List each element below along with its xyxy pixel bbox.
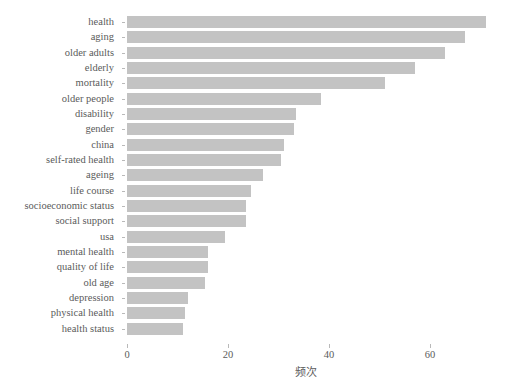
bar-row (127, 123, 294, 135)
y-axis-tick-mark (122, 99, 125, 100)
bar-row (127, 215, 246, 227)
bar (127, 47, 445, 59)
y-axis-tick-mark (122, 191, 125, 192)
y-axis-tick-label: china (91, 139, 114, 151)
y-axis-tick-label: aging (91, 31, 114, 43)
y-axis-tick-mark (122, 313, 125, 314)
bar-row (127, 16, 486, 28)
y-axis-tick-label: social support (55, 215, 114, 227)
y-axis-tick-mark (122, 329, 125, 330)
y-axis-tick-mark (122, 221, 125, 222)
bar-row (127, 108, 296, 120)
bar (127, 277, 205, 289)
x-axis-tick-label: 60 (425, 349, 436, 360)
x-axis-tick-label: 40 (324, 349, 335, 360)
bar (127, 261, 208, 273)
bar (127, 323, 183, 335)
bar (127, 62, 415, 74)
plot-area (127, 14, 508, 344)
bar-row (127, 261, 208, 273)
bar-row (127, 47, 445, 59)
bar-chart: healthagingolder adultselderlymortalityo… (0, 0, 508, 384)
bar-row (127, 246, 208, 258)
bar-row (127, 169, 263, 181)
y-axis-tick-mark (122, 206, 125, 207)
y-axis-tick-label: elderly (85, 62, 114, 74)
y-axis-tick-label: mortality (76, 77, 115, 89)
y-axis-tick-mark (122, 160, 125, 161)
bar (127, 246, 208, 258)
bar-row (127, 62, 415, 74)
y-axis-tick-mark (122, 83, 125, 84)
x-axis-tick-label: 20 (223, 349, 234, 360)
y-axis-tick-label: older adults (65, 47, 114, 59)
y-axis-tick-label: older people (62, 93, 114, 105)
bar (127, 292, 188, 304)
bar-row (127, 93, 321, 105)
y-axis-tick-label: life course (70, 185, 114, 197)
y-axis-tick-label: old age (83, 277, 114, 289)
bar-row (127, 292, 188, 304)
y-axis-tick-label: usa (100, 231, 114, 243)
y-axis-tick-mark (122, 145, 125, 146)
y-axis-tick-mark (122, 114, 125, 115)
bar-row (127, 200, 246, 212)
bar (127, 231, 225, 243)
bar (127, 154, 281, 166)
bar (127, 215, 246, 227)
bar-row (127, 231, 225, 243)
x-axis-tick-label: 0 (124, 349, 129, 360)
y-axis-tick-mark (122, 175, 125, 176)
bar-row (127, 77, 385, 89)
x-axis-tick-mark (127, 344, 128, 348)
x-axis-tick-mark (329, 344, 330, 348)
bar (127, 169, 263, 181)
y-axis-tick-mark (122, 298, 125, 299)
y-axis-tick-mark (122, 252, 125, 253)
y-axis-tick-mark (122, 53, 125, 54)
y-axis-tick-label: health (88, 16, 114, 28)
y-axis-labels: healthagingolder adultselderlymortalityo… (0, 14, 122, 344)
bar (127, 108, 296, 120)
bar (127, 307, 185, 319)
x-axis-title: 频次 (0, 363, 508, 379)
y-axis-tick-mark (122, 237, 125, 238)
bar-row (127, 323, 183, 335)
bar (127, 200, 246, 212)
y-axis-tick-label: quality of life (57, 261, 114, 273)
y-axis-tick-label: gender (85, 123, 114, 135)
bar-row (127, 277, 205, 289)
y-axis-tick-label: health status (62, 323, 114, 335)
x-axis-tick-mark (228, 344, 229, 348)
bar (127, 77, 385, 89)
bar (127, 123, 294, 135)
bar (127, 16, 486, 28)
x-axis-tick-mark (430, 344, 431, 348)
y-axis-tick-label: disability (75, 108, 114, 120)
bar (127, 139, 284, 151)
bar-row (127, 185, 251, 197)
y-axis-tick-label: self-rated health (46, 154, 114, 166)
y-axis-tick-label: socioeconomic status (24, 200, 114, 212)
x-axis-title-label: 频次 (295, 366, 317, 379)
bar-row (127, 31, 465, 43)
y-axis-tick-mark (122, 37, 125, 38)
bar-row (127, 307, 185, 319)
y-axis-tick-mark (122, 129, 125, 130)
y-axis-tick-label: physical health (51, 307, 114, 319)
y-axis-tick-mark (122, 68, 125, 69)
y-axis-tick-label: depression (69, 292, 114, 304)
bar (127, 31, 465, 43)
bar-row (127, 154, 281, 166)
y-axis-tick-label: ageing (86, 169, 114, 181)
bar (127, 185, 251, 197)
bar-row (127, 139, 284, 151)
y-axis-tick-mark (122, 283, 125, 284)
y-axis-tick-mark (122, 22, 125, 23)
bar (127, 93, 321, 105)
y-axis-tick-label: mental health (57, 246, 114, 258)
y-axis-tick-mark (122, 267, 125, 268)
